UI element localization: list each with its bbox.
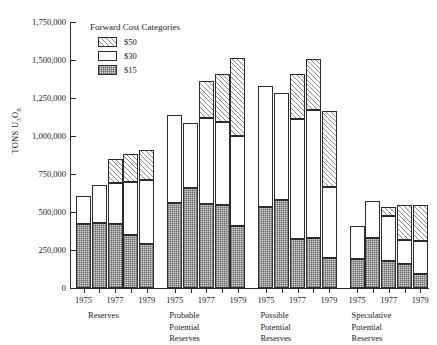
bar-segment-cost-15 (365, 238, 380, 288)
bar-segment-cost-15 (199, 204, 214, 288)
bar-segment-cost-30 (92, 185, 107, 223)
bar-segment-cost-30 (413, 241, 428, 274)
bar-group-label: Reserves (88, 310, 174, 322)
bar-segment-cost-15 (306, 238, 321, 288)
y-axis-tick (70, 174, 76, 175)
group-label-line: Potential (260, 322, 346, 334)
bar-segment-cost-30 (397, 240, 412, 264)
bar-segment-cost-50 (413, 205, 428, 241)
y-axis-tick (70, 22, 76, 23)
bar-segment-cost-30 (306, 110, 321, 238)
stacked-bar (183, 123, 198, 288)
bar-segment-cost-50 (139, 150, 154, 180)
bar-segment-cost-30 (258, 86, 273, 208)
x-axis-tick (389, 288, 390, 293)
x-axis-tick (222, 288, 223, 293)
bar-segment-cost-30 (215, 122, 230, 206)
y-axis-tick (70, 136, 76, 137)
y-axis-tick (70, 60, 76, 61)
stacked-bar (230, 58, 245, 288)
bar-segment-cost-30 (167, 115, 182, 203)
bar-segment-cost-15 (139, 244, 154, 288)
stacked-bar (381, 207, 396, 288)
legend-label: $30 (124, 51, 137, 61)
bar-segment-cost-50 (108, 159, 123, 183)
bar-segment-cost-15 (322, 258, 337, 288)
x-axis-year-label: 1977 (372, 295, 406, 305)
bar-segment-cost-15 (167, 203, 182, 288)
bar-segment-cost-30 (290, 119, 305, 239)
bar-segment-cost-30 (108, 183, 123, 224)
bar-segment-cost-30 (274, 93, 289, 200)
bar-segment-cost-50 (123, 154, 138, 182)
bar-segment-cost-50 (306, 59, 321, 110)
group-label-line: Probable (169, 310, 255, 322)
legend-entry: $50 (98, 37, 180, 47)
bar-segment-cost-50 (322, 111, 337, 187)
y-axis-tick-label: 1,000,000 (8, 132, 66, 141)
bar-segment-cost-30 (365, 201, 380, 238)
y-axis-tick-label: 0 (8, 284, 66, 293)
bar-segment-cost-30 (139, 180, 154, 244)
group-label-line: Reserves (88, 310, 174, 322)
stacked-bar (108, 159, 123, 288)
stacked-bar (413, 205, 428, 288)
x-axis-line (70, 288, 429, 289)
x-axis-tick (357, 288, 358, 293)
bar-segment-cost-50 (397, 205, 412, 240)
group-label-line: Speculative (352, 310, 437, 322)
bar-segment-cost-15 (123, 235, 138, 288)
y-axis-tick-label: 250,000 (8, 246, 66, 255)
group-label-line: Reserves (169, 333, 255, 345)
bar-segment-cost-15 (92, 223, 107, 288)
bar-segment-cost-15 (413, 274, 428, 288)
y-axis-tick-label: 1,250,000 (8, 94, 66, 103)
bar-segment-cost-15 (108, 224, 123, 288)
y-axis-tick-label: 750,000 (8, 170, 66, 179)
stacked-bar (306, 59, 321, 288)
stacked-bar (274, 93, 289, 288)
group-label-line: Reserves (352, 333, 437, 345)
bar-segment-cost-15 (215, 205, 230, 288)
x-axis-year-label: 1975 (158, 295, 192, 305)
x-axis-tick (191, 288, 192, 293)
x-axis-tick (99, 288, 100, 293)
group-label-line: Potential (169, 322, 255, 334)
x-axis-year-label: 1975 (249, 295, 283, 305)
y-axis-tick (70, 98, 76, 99)
bar-segment-cost-50 (215, 74, 230, 121)
legend-label: $15 (124, 65, 137, 75)
stacked-bar (92, 185, 107, 288)
x-axis-tick (115, 288, 116, 293)
x-axis-tick (131, 288, 132, 293)
legend-label: $50 (124, 37, 137, 47)
legend-entry: $15 (98, 65, 180, 75)
y-axis-tick (70, 250, 76, 251)
bar-group-label: PossiblePotentialReserves (260, 310, 346, 345)
bar-group (350, 22, 428, 288)
legend-entries: $50$30$15 (88, 37, 180, 75)
bar-segment-cost-30 (381, 216, 396, 262)
bar-segment-cost-50 (199, 81, 214, 117)
legend: Forward Cost Categories $50$30$15 (88, 22, 180, 79)
bar-segment-cost-15 (381, 261, 396, 288)
y-axis-tick (70, 212, 76, 213)
bar-segment-cost-15 (290, 239, 305, 288)
stacked-bar (123, 153, 138, 288)
bar-segment-cost-30 (183, 123, 198, 188)
bar-segment-cost-30 (123, 182, 138, 235)
stacked-bar (139, 150, 154, 288)
bar-segment-cost-50 (230, 58, 245, 136)
bar-segment-cost-30 (199, 118, 214, 204)
x-axis-tick (298, 288, 299, 293)
stacked-bar (290, 74, 305, 288)
y-axis-tick-label: 1,750,000 (8, 18, 66, 27)
legend-entry: $30 (98, 51, 180, 61)
x-axis-tick (206, 288, 207, 293)
bar-segment-cost-50 (381, 207, 396, 215)
legend-swatch-cost-30 (98, 51, 117, 61)
bar-group-label: ProbablePotentialReserves (169, 310, 255, 345)
y-axis-tick-label: 500,000 (8, 208, 66, 217)
x-axis-year-label: 1977 (98, 295, 132, 305)
